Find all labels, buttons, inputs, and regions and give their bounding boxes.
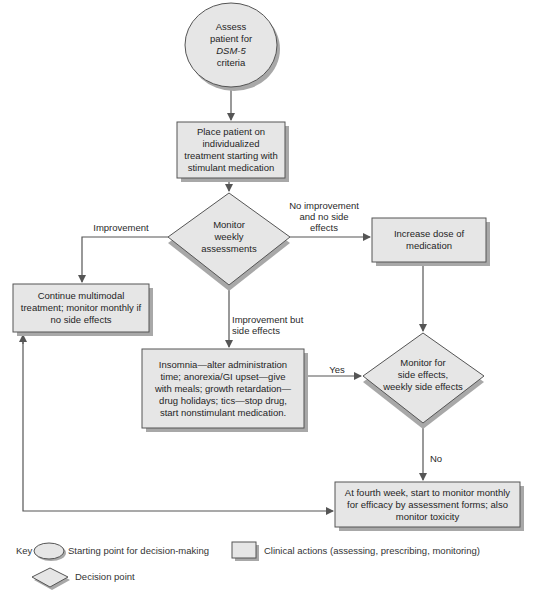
increase-dose-line: medication: [394, 240, 464, 252]
monitor-side-effects-line: weekly side effects: [383, 381, 463, 393]
fourth-week-line: for efficacy by assessment forms; also: [345, 499, 510, 511]
monitor-weekly-text: Monitor weekly assessments: [185, 212, 273, 262]
fourth-week-text: At fourth week, start to monitor monthly…: [335, 482, 520, 527]
monitor-side-effects-line: Monitor for: [383, 357, 463, 369]
edge-improvement: [82, 237, 168, 282]
place-patient-line: stimulant medication: [184, 162, 277, 174]
continue-treatment-line: Continue multimodal: [21, 290, 141, 302]
side-effects-mgmt-line: start nonstimulant medication.: [155, 407, 291, 419]
place-patient-line: Place patient on: [184, 126, 277, 138]
label-yes: Yes: [322, 364, 352, 375]
increase-dose-text: Increase dose of medication: [372, 218, 486, 262]
side-effects-mgmt-line: time; anorexia/GI upset—give: [155, 371, 291, 383]
continue-treatment-line: treatment; monitor monthly if: [21, 302, 141, 314]
monitor-weekly-line: assessments: [201, 243, 256, 255]
label-no-improvement: No improvement and no side effects: [284, 200, 364, 233]
key-diamond-label: Decision point: [75, 571, 135, 582]
continue-treatment-line: no side effects: [21, 314, 141, 326]
place-patient-line: individualized: [184, 138, 277, 150]
label-no: No: [430, 453, 450, 464]
key-diamond-icon: [32, 568, 68, 587]
label-line: and no side: [284, 211, 364, 222]
side-effects-mgmt-line: with meals; growth retardation—: [155, 383, 291, 395]
monitor-weekly-line: weekly: [201, 231, 256, 243]
label-line: Improvement but: [232, 314, 316, 325]
label-improvement: Improvement: [86, 222, 156, 233]
start-line: criteria: [210, 57, 252, 69]
label-line: side effects: [232, 325, 316, 336]
monitor-weekly-line: Monitor: [201, 219, 256, 231]
side-effects-mgmt-text: Insomnia—alter administration time; anor…: [142, 349, 304, 428]
monitor-side-effects-text: Monitor for side effects, weekly side ef…: [373, 352, 473, 398]
side-effects-mgmt-line: Insomnia—alter administration: [155, 359, 291, 371]
label-line: effects: [284, 222, 364, 233]
increase-dose-line: Increase dose of: [394, 228, 464, 240]
key-title: Key: [16, 545, 32, 556]
continue-treatment-text: Continue multimodal treatment; monitor m…: [13, 284, 149, 332]
start-line: Assess: [210, 21, 252, 33]
key-ellipse-label: Starting point for decision-making: [68, 545, 209, 556]
place-patient-line: treatment starting with: [184, 150, 277, 162]
key-rectangle-label: Clinical actions (assessing, prescribing…: [264, 545, 480, 556]
monitor-side-effects-line: side effects,: [383, 369, 463, 381]
fourth-week-line: At fourth week, start to monitor monthly: [345, 487, 510, 499]
label-improvement-side-effects: Improvement but side effects: [232, 314, 316, 336]
side-effects-mgmt-line: drug holidays; tics—stop drug,: [155, 395, 291, 407]
label-line: No improvement: [284, 200, 364, 211]
fourth-week-line: monitor toxicity: [345, 511, 510, 523]
key-rectangle-icon: [232, 542, 256, 558]
place-patient-text: Place patient on individualized treatmen…: [177, 122, 285, 178]
start-line-dsm5: DSM-5: [210, 45, 252, 57]
start-node-text: Assess patient for DSM-5 criteria: [185, 5, 277, 85]
start-line: patient for: [210, 33, 252, 45]
key-ellipse-icon: [34, 543, 64, 559]
